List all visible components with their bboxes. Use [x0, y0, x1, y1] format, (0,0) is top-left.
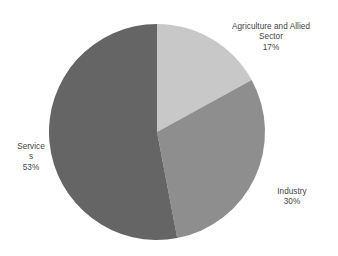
- pie-label-agriculture-and-allied-sector: Agriculture and Allied Sector 17%: [208, 11, 334, 64]
- pie-chart: Agriculture and Allied Sector 17% Indust…: [0, 0, 338, 256]
- pie-label-services-percent: 53%: [4, 163, 58, 174]
- pie-label-industry-text: Industry: [277, 187, 307, 196]
- pie-label-services: Service s 53%: [4, 131, 58, 184]
- pie-label-agriculture-text: Agriculture and Allied Sector: [232, 22, 310, 42]
- pie-label-agriculture-percent: 17%: [208, 43, 334, 54]
- pie-label-industry-percent: 30%: [252, 197, 332, 208]
- pie-label-industry: Industry 30%: [252, 176, 332, 218]
- pie-label-services-text: Service s: [17, 142, 45, 162]
